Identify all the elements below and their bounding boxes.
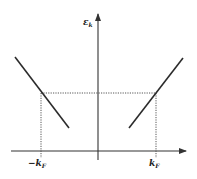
neg-kf-label: −kF [28,158,47,169]
dispersion-diagram: εk −kF kF [0,0,197,179]
y-axis-label: εk [83,17,93,28]
left-branch [15,57,69,128]
pos-kf-label: kF [149,158,160,169]
